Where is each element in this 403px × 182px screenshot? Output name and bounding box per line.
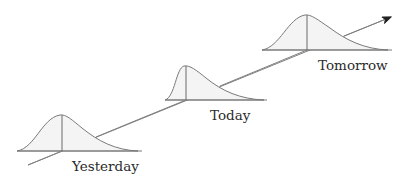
bell-curve-today [165,66,264,100]
label-yesterday: Yesterday [71,158,139,174]
distribution-today: Today [165,66,267,123]
trend-segment-mid [142,100,186,118]
trend-segment-tomorrow [344,17,391,36]
trend-segment-upper [266,50,307,67]
trend-segment-lower [28,151,62,165]
label-tomorrow: Tomorrow [318,57,388,73]
label-today: Today [210,107,251,123]
bell-curve-yesterday [17,115,138,151]
distribution-yesterday: Yesterday [17,115,142,174]
trend-segment-yesterday [96,118,142,137]
distribution-timeline-diagram: Yesterday Today Tomorrow [0,0,403,182]
distribution-tomorrow: Tomorrow [262,15,392,73]
bell-curve-tomorrow [262,15,388,50]
trend-segment-today [220,67,266,86]
